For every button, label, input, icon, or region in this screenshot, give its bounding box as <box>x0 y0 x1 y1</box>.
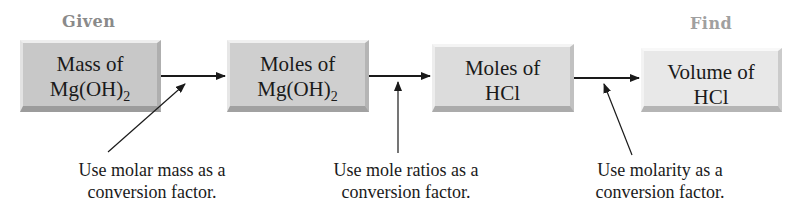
note-molarity: Use molarity as aconversion factor. <box>560 159 760 203</box>
note-mole-ratios: Use mole ratios as aconversion factor. <box>306 159 506 203</box>
note-molar-mass: Use molar mass as aconversion factor. <box>52 159 252 203</box>
pointer-arrow <box>604 84 632 155</box>
pointer-arrow <box>108 84 185 152</box>
